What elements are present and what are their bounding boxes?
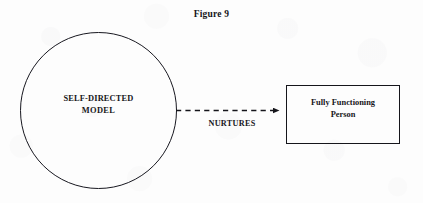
figure-caption: Figure 9 [0,9,423,19]
fully-functioning-person-label: Fully Functioning Person [286,97,400,121]
self-directed-model-label: SELF-DIRECTED MODEL [20,93,177,118]
self-directed-model-label-line1: SELF-DIRECTED [20,93,177,105]
self-directed-model-label-line2: MODEL [20,105,177,117]
fully-functioning-person-label-line2: Person [286,109,400,121]
nurtures-edge-label: NURTURES [178,119,286,128]
figure-canvas: Figure 9 SELF-DIRECTED MODEL NURTURES Fu… [0,0,423,203]
fully-functioning-person-label-line1: Fully Functioning [286,97,400,109]
